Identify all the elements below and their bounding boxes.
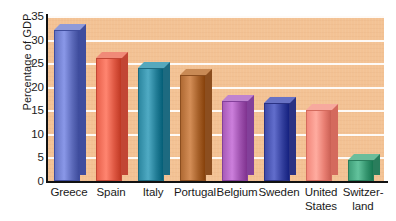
bar-front-face: [264, 103, 290, 181]
bar-side-face: [206, 69, 212, 175]
x-tick-label-line: Spain: [97, 186, 126, 198]
y-tick-label: 30: [0, 34, 44, 46]
x-axis-line: [46, 181, 388, 183]
bar: [54, 30, 80, 181]
bar-side-face: [248, 95, 254, 175]
y-tick-label: 0: [0, 175, 44, 187]
bar-side-face: [80, 24, 86, 175]
gridline: [48, 40, 384, 42]
chart-figure: Percentage of GDP 05101520253035 GreeceS…: [0, 0, 396, 221]
bar: [264, 103, 290, 181]
y-axis-tick-labels: 05101520253035: [0, 0, 44, 221]
bar-side-face: [164, 62, 170, 175]
bar: [348, 160, 374, 181]
bar: [96, 58, 122, 181]
x-tick-label: Switzer-land: [336, 185, 390, 213]
bar-side-face: [332, 104, 338, 175]
y-axis-line: [46, 14, 48, 183]
y-tick-label: 5: [0, 151, 44, 163]
bar: [138, 68, 164, 181]
bar: [222, 101, 248, 181]
bar-front-face: [54, 30, 80, 181]
y-tick-label: 15: [0, 104, 44, 116]
bar-front-face: [180, 75, 206, 181]
bar-side-face: [290, 97, 296, 175]
plot-area: [48, 16, 384, 181]
bar-front-face: [306, 110, 332, 181]
bar-front-face: [96, 58, 122, 181]
gridline: [48, 16, 384, 18]
x-tick-label-line: Italy: [143, 186, 164, 198]
bar-front-face: [138, 68, 164, 181]
x-tick-label-line: United: [305, 186, 338, 198]
x-tick-label-line: Greece: [50, 186, 87, 198]
bar-side-face: [122, 52, 128, 175]
bar-front-face: [348, 160, 374, 181]
y-tick-label: 25: [0, 57, 44, 69]
x-axis-tick-labels: GreeceSpainItalyPortugalBelgiumSwedenUni…: [48, 185, 384, 221]
bar-front-face: [222, 101, 248, 181]
x-tick-label-line: Switzer-: [343, 186, 384, 198]
y-tick-label: 35: [0, 10, 44, 22]
y-tick-label: 10: [0, 128, 44, 140]
bar: [306, 110, 332, 181]
bar: [180, 75, 206, 181]
y-tick-label: 20: [0, 81, 44, 93]
x-tick-label-line: land: [336, 199, 390, 213]
